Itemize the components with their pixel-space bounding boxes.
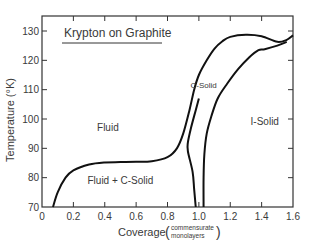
x-tick-label: 0.4 <box>98 211 112 222</box>
x-units-open-paren: ( <box>165 224 170 240</box>
x-tick-label: 0.6 <box>129 211 143 222</box>
y-tick-label: 70 <box>28 202 40 213</box>
y-tick-label: 110 <box>23 84 39 95</box>
region-label: Fluid + C-Solid <box>88 175 154 186</box>
y-tick-label: 80 <box>28 172 40 183</box>
y-tick-label: 120 <box>22 55 39 66</box>
x-units-close-paren: ) <box>216 224 221 240</box>
x-tick-label: 1.6 <box>286 211 300 222</box>
x-axis-label: Coverage <box>118 226 166 238</box>
region-label: Fluid <box>97 122 119 133</box>
x-tick-label: 1.0 <box>192 211 206 222</box>
x-tick-label: 1.4 <box>255 211 269 222</box>
y-tick-label: 90 <box>28 143 40 154</box>
region-label: I-Solid <box>251 116 279 127</box>
y-tick-label: 100 <box>22 114 39 125</box>
x-units-top: commensurate <box>171 224 214 231</box>
phase-diagram: 00.20.40.60.81.01.21.41.6 70809010011012… <box>0 0 309 249</box>
chart-title: Krypton on Graphite <box>64 26 172 40</box>
y-axis-label: Temperature (°K) <box>4 78 16 162</box>
x-tick-label: 0 <box>39 211 45 222</box>
x-tick-label: 1.2 <box>223 211 237 222</box>
y-tick-label: 130 <box>22 26 39 37</box>
x-tick-label: 0.2 <box>66 211 80 222</box>
x-units-bottom: monolayers <box>171 232 205 240</box>
region-label: C-Solid <box>190 81 216 90</box>
plot-frame <box>42 16 293 207</box>
x-tick-label: 0.8 <box>161 211 175 222</box>
